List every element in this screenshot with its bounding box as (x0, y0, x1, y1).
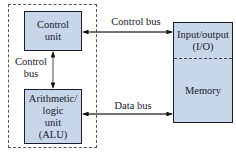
control-bus-top-label: Control bus (106, 16, 166, 28)
control-bus-vertical-label-2: bus (13, 68, 49, 80)
control-bus-vertical-label-1: Control (13, 56, 49, 68)
data-bus-label: Data bus (108, 100, 158, 112)
